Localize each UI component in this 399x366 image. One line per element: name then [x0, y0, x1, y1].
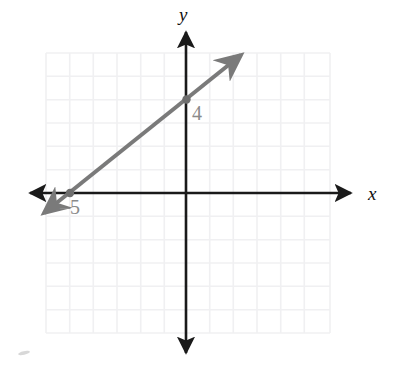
y-intercept-point [182, 95, 190, 103]
x-intercept-label: –5 [59, 196, 80, 218]
y-intercept-label: 4 [192, 102, 202, 124]
plotted-line [44, 55, 241, 213]
scan-smudge-artifact [18, 350, 30, 356]
y-axis-label: y [177, 4, 188, 25]
coordinate-plane-figure: 4 –5 x y [0, 0, 399, 366]
graph-canvas: 4 –5 x y [0, 0, 399, 366]
x-axis-label: x [367, 183, 377, 204]
